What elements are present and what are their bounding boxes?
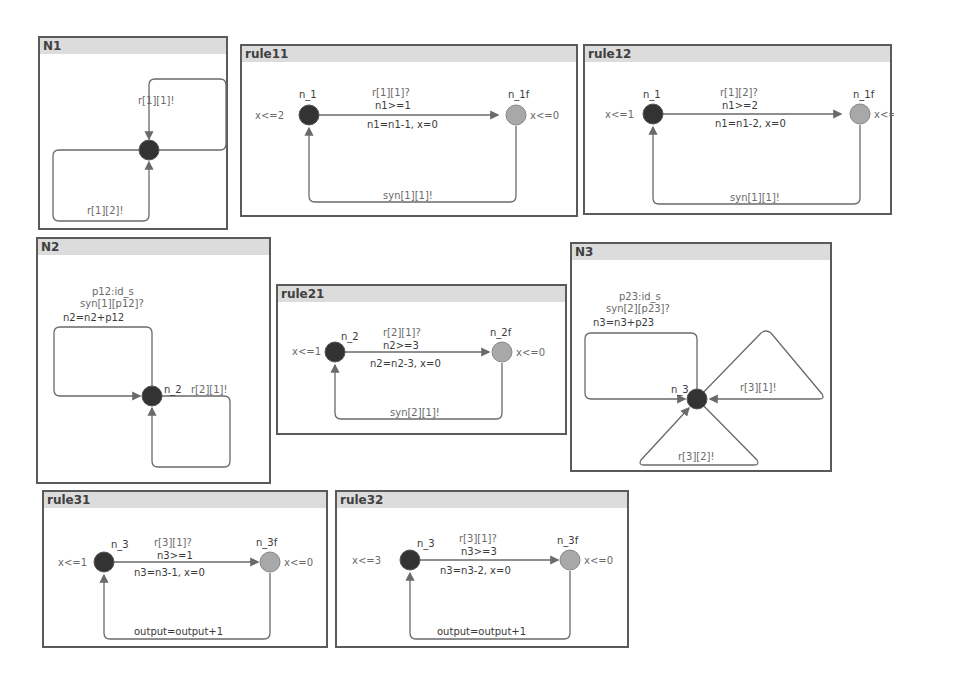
- rule11-graph: n_1 x<=2 n_1f x<=0 r[1][1]? n1>=1 n1=n1-…: [242, 46, 580, 219]
- location-name: n_1: [299, 89, 317, 101]
- sync-label: syn[2][p23]?: [606, 303, 670, 314]
- initial-location: [400, 550, 420, 570]
- update-label: n1=n1-2, x=0: [715, 118, 786, 129]
- sync-label: r[1][1]?: [372, 87, 410, 98]
- rule21-graph: n_2 x<=1 n_2f x<=0 r[2][1]? n2>=3 n2=n2-…: [278, 286, 569, 437]
- initial-location: [299, 105, 319, 125]
- location-name: n_3: [671, 384, 689, 396]
- guard-label: n3>=1: [157, 550, 193, 561]
- select-label: p12:id_s: [92, 286, 134, 298]
- invariant: x<=0: [584, 555, 613, 566]
- location-name: n_1: [643, 89, 661, 101]
- location-name: n_2f: [490, 327, 512, 339]
- guard-label: n3>=3: [461, 546, 497, 557]
- update-label: n2=n2-3, x=0: [370, 358, 441, 369]
- invariant: x<=3: [352, 555, 381, 566]
- sync-label: r[3][1]?: [459, 533, 497, 544]
- update-label: n3=n3-1, x=0: [134, 567, 205, 578]
- location-node: [139, 140, 159, 160]
- sync-label: syn[1][p12]?: [80, 298, 144, 309]
- location-name: n_3: [111, 539, 129, 551]
- sync-label: r[1][2]?: [720, 87, 758, 98]
- automaton-rule32: rule32 n_3 x<=3 n_3f x<=0 r[3][1]? n3>=3…: [335, 490, 629, 648]
- invariant: x<=2: [255, 110, 284, 121]
- automaton-N3: N3 p23:id_s syn[2][p23]? n3=n3+p23 n_3 r…: [570, 242, 832, 472]
- automaton-rule31: rule31 n_3 x<=1 n_3f x<=0 r[3][1]? n3>=1…: [42, 490, 328, 648]
- rule12-graph: n_1 x<=1 n_1f x<=0 r[1][2]? n1>=2 n1=n1-…: [585, 46, 894, 217]
- guard-label: n2>=3: [383, 340, 419, 351]
- initial-location: [643, 104, 663, 124]
- location-name: n_1f: [508, 89, 530, 101]
- invariant: x<=0: [874, 109, 894, 120]
- final-location: [506, 105, 526, 125]
- guard-label: n1>=1: [375, 100, 411, 111]
- edge-top-loop: [149, 79, 226, 150]
- guard-label: n1>=2: [722, 100, 758, 111]
- return-update-label: output=output+1: [134, 626, 223, 637]
- location-name: n_2: [164, 384, 182, 396]
- update-label: n2=n2+p12: [63, 312, 124, 323]
- location-name: n_3f: [256, 537, 278, 549]
- return-sync-label: syn[1][1]!: [730, 192, 780, 203]
- automaton-rule21: rule21 n_2 x<=1 n_2f x<=0 r[2][1]? n2>=3…: [276, 284, 567, 435]
- automaton-N2: N2 p12:id_s syn[1][p12]? n2=n2+p12 n_2 r…: [36, 237, 271, 484]
- edge-label-right: r[2][1]!: [191, 384, 227, 395]
- edge-label-right: r[3][1]!: [740, 382, 776, 393]
- location-node: [142, 386, 162, 406]
- sync-label: r[3][1]?: [154, 537, 192, 548]
- N2-graph: p12:id_s syn[1][p12]? n2=n2+p12 n_2 r[2]…: [38, 239, 273, 486]
- location-name: n_3: [417, 538, 435, 550]
- location-node: [687, 389, 707, 409]
- final-location: [492, 342, 512, 362]
- automaton-N1: N1 r[1][1]! r[1][2]!: [38, 36, 228, 230]
- rule31-graph: n_3 x<=1 n_3f x<=0 r[3][1]? n3>=1 n3=n3-…: [44, 492, 330, 650]
- automaton-rule12: rule12 n_1 x<=1 n_1f x<=0 r[1][2]? n1>=2…: [583, 44, 892, 215]
- update-label: n3=n3-2, x=0: [440, 565, 511, 576]
- edge-label-bottom: r[3][2]!: [678, 451, 714, 462]
- initial-location: [94, 552, 114, 572]
- edge-label-bottom: r[1][2]!: [87, 205, 123, 216]
- final-location: [560, 550, 580, 570]
- return-sync-label: syn[1][1]!: [383, 190, 433, 201]
- location-name: n_1f: [853, 89, 875, 101]
- edge-label-top: r[1][1]!: [138, 95, 174, 106]
- initial-location: [325, 342, 345, 362]
- return-sync-label: syn[2][1]!: [390, 407, 440, 418]
- rule32-graph: n_3 x<=3 n_3f x<=0 r[3][1]? n3>=3 n3=n3-…: [337, 492, 631, 650]
- invariant: x<=1: [605, 109, 634, 120]
- invariant: x<=1: [58, 557, 87, 568]
- invariant: x<=0: [530, 110, 559, 121]
- final-location: [850, 104, 870, 124]
- update-label: n1=n1-1, x=0: [367, 119, 438, 130]
- location-name: n_3f: [557, 535, 579, 547]
- return-update-label: output=output+1: [437, 626, 526, 637]
- sync-label: r[2][1]?: [383, 327, 421, 338]
- location-name: n_2: [341, 331, 359, 343]
- select-label: p23:id_s: [619, 291, 661, 303]
- N3-graph: p23:id_s syn[2][p23]? n3=n3+p23 n_3 r[3]…: [572, 244, 834, 474]
- automaton-rule11: rule11 n_1 x<=2 n_1f x<=0 r[1][1]? n1>=1…: [240, 44, 578, 217]
- N1-graph: r[1][1]! r[1][2]!: [40, 38, 230, 232]
- final-location: [260, 552, 280, 572]
- update-label: n3=n3+p23: [593, 317, 654, 328]
- invariant: x<=0: [516, 347, 545, 358]
- invariant: x<=0: [284, 557, 313, 568]
- invariant: x<=1: [292, 346, 321, 357]
